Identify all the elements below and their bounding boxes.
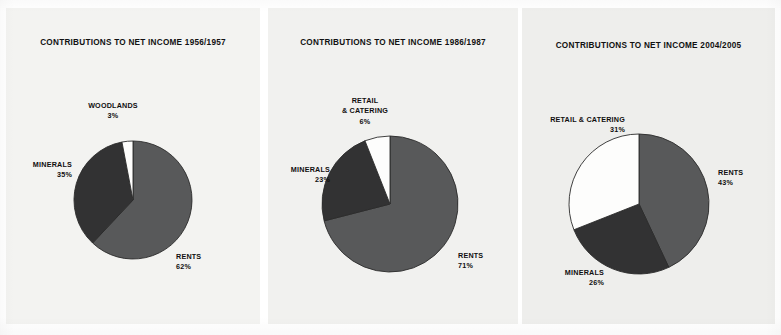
slice-label-percent: 62%: [176, 262, 201, 272]
slice-label-minerals: MINERALS26%: [528, 268, 604, 289]
slice-label-name: & CATERING: [330, 106, 400, 116]
slice-label-name: WOODLANDS: [78, 101, 148, 111]
slice-label-percent: 26%: [528, 278, 604, 288]
pie-svg-1986: [316, 130, 464, 278]
slice-label-minerals: MINERALS35%: [14, 160, 72, 181]
slice-label-percent: 71%: [458, 261, 483, 271]
slice-label-rents: RENTS71%: [458, 251, 483, 272]
slice-label-percent: 43%: [718, 178, 743, 188]
slice-label-name: RENTS: [176, 252, 201, 262]
pie-svg-1956: [68, 135, 198, 265]
slice-label-percent: 3%: [78, 111, 148, 121]
slice-label-name: MINERALS: [528, 268, 604, 278]
slice-label-percent: 6%: [330, 117, 400, 127]
slice-label-percent: 35%: [14, 170, 72, 180]
slice-label-percent: 31%: [525, 125, 625, 135]
slice-label-woodlands: WOODLANDS3%: [78, 101, 148, 122]
chart-panel-1956: CONTRIBUTIONS TO NET INCOME 1956/1957 RE…: [6, 8, 260, 324]
pie-svg-2004: [563, 128, 715, 280]
slice-label-retail-catering: RETAIL & CATERING31%: [525, 115, 625, 136]
slice-label-name: MINERALS: [272, 165, 330, 175]
slice-label-name: MINERALS: [14, 160, 72, 170]
slice-label-name: RETAIL: [330, 96, 400, 106]
slice-label-name: RETAIL & CATERING: [525, 115, 625, 125]
chart-panel-2004: CONTRIBUTIONS TO NET INCOME 2004/2005 RE…: [522, 8, 775, 324]
slice-label-name: RENTS: [718, 168, 743, 178]
pie-chart-1956: RENTS62% MINERALS35% WOODLANDS3%: [6, 8, 260, 324]
slice-label-percent: 23%: [272, 175, 330, 185]
slice-label-name: RENTS: [458, 251, 483, 261]
slice-label-retail-catering: RETAIL& CATERING6%: [330, 96, 400, 127]
chart-panel-1986: CONTRIBUTIONS TO NET INCOME 1986/1987 RE…: [268, 8, 518, 324]
slice-label-minerals: MINERALS23%: [272, 165, 330, 186]
pie-chart-2004: RENTS43% MINERALS26% RETAIL & CATERING31…: [522, 8, 775, 324]
figure-page: CONTRIBUTIONS TO NET INCOME 1956/1957 RE…: [0, 0, 781, 335]
slice-label-rents: RENTS43%: [718, 168, 743, 189]
slice-label-rents: RENTS62%: [176, 252, 201, 273]
pie-chart-1986: RENTS71% MINERALS23% RETAIL& CATERING6%: [268, 8, 518, 324]
